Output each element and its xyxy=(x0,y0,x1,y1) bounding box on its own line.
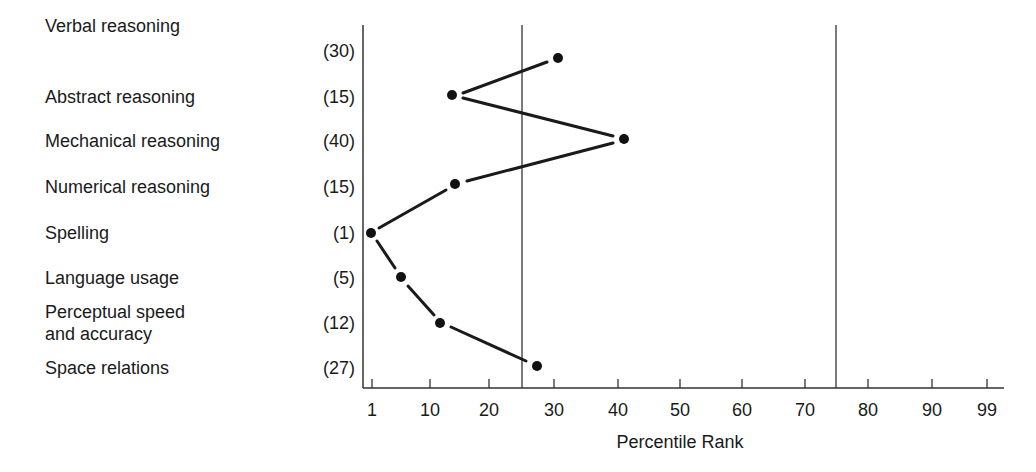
tick-label-40: 40 xyxy=(608,400,628,421)
point-mechanical-reasoning xyxy=(619,134,629,144)
tick-label-1: 1 xyxy=(367,400,377,421)
tick-label-60: 60 xyxy=(732,400,752,421)
point-language-usage xyxy=(396,272,406,282)
point-perceptual-speed xyxy=(435,318,445,328)
x-ticks xyxy=(372,379,987,388)
x-axis-title: Percentile Rank xyxy=(616,432,743,453)
tick-label-90: 90 xyxy=(922,400,942,421)
tick-label-50: 50 xyxy=(670,400,690,421)
tick-label-30: 30 xyxy=(544,400,564,421)
profile-line xyxy=(377,62,613,361)
profile-chart xyxy=(0,0,1036,472)
point-spelling xyxy=(366,228,376,238)
point-verbal-reasoning xyxy=(553,53,563,63)
tick-label-20: 20 xyxy=(479,400,499,421)
point-space-relations xyxy=(532,361,542,371)
tick-label-80: 80 xyxy=(858,400,878,421)
tick-label-99: 99 xyxy=(977,400,997,421)
tick-label-70: 70 xyxy=(795,400,815,421)
point-numerical-reasoning xyxy=(450,179,460,189)
point-abstract-reasoning xyxy=(447,90,457,100)
tick-label-10: 10 xyxy=(420,400,440,421)
